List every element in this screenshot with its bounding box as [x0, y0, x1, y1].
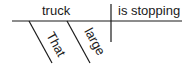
subject-word: truck [42, 3, 71, 18]
modifier-line-2 [67, 21, 90, 63]
predicate-word: is stopping [118, 3, 180, 18]
modifier-word-2: large [81, 25, 108, 58]
sentence-diagram: truck is stopping That large [0, 0, 191, 72]
